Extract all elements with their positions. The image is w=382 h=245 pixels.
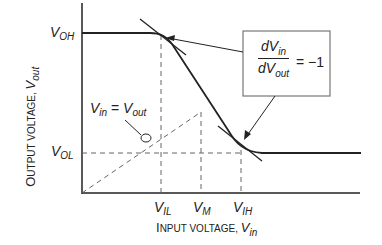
- vih-tick-label: VIH: [233, 199, 252, 217]
- unity-label-leader: [125, 120, 141, 135]
- voh-label: VOH: [50, 24, 74, 42]
- fraction-bar: [258, 58, 289, 59]
- vil-tick-label: VIL: [154, 199, 172, 217]
- gain-value: = −1: [296, 54, 324, 70]
- arrow-to-lower: [246, 96, 275, 137]
- x-axis-title: INPUT VOLTAGE, Vin: [156, 220, 257, 238]
- gain-numerator: dVin: [258, 38, 289, 57]
- unity-line-label: Vin = Vout: [90, 100, 146, 118]
- tangent-upper: [140, 19, 186, 55]
- y-axis-title: OUTPUT VOLTAGE, Vout: [23, 42, 41, 212]
- vol-label: VOL: [51, 143, 74, 161]
- vm-tick-label: VM: [193, 199, 211, 217]
- unity-point-marker: [141, 134, 151, 142]
- gain-fraction: dVin dVout: [258, 38, 289, 79]
- tangent-lower: [218, 126, 262, 161]
- gain-denominator: dVout: [258, 60, 289, 79]
